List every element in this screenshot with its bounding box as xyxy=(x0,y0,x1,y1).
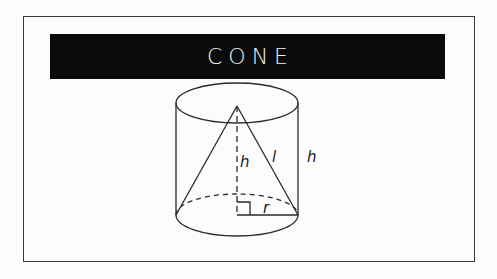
cylinder-height-label: h xyxy=(307,148,317,166)
radius-label: r xyxy=(263,199,270,217)
cone-left-side xyxy=(176,106,237,215)
right-angle-marker xyxy=(237,202,250,215)
cylinder-bottom-front-arc xyxy=(176,215,298,236)
slant-height-label: l xyxy=(272,148,277,166)
cone-height-label: h xyxy=(240,153,250,171)
cone-cylinder-diagram: h l h r xyxy=(0,0,497,279)
